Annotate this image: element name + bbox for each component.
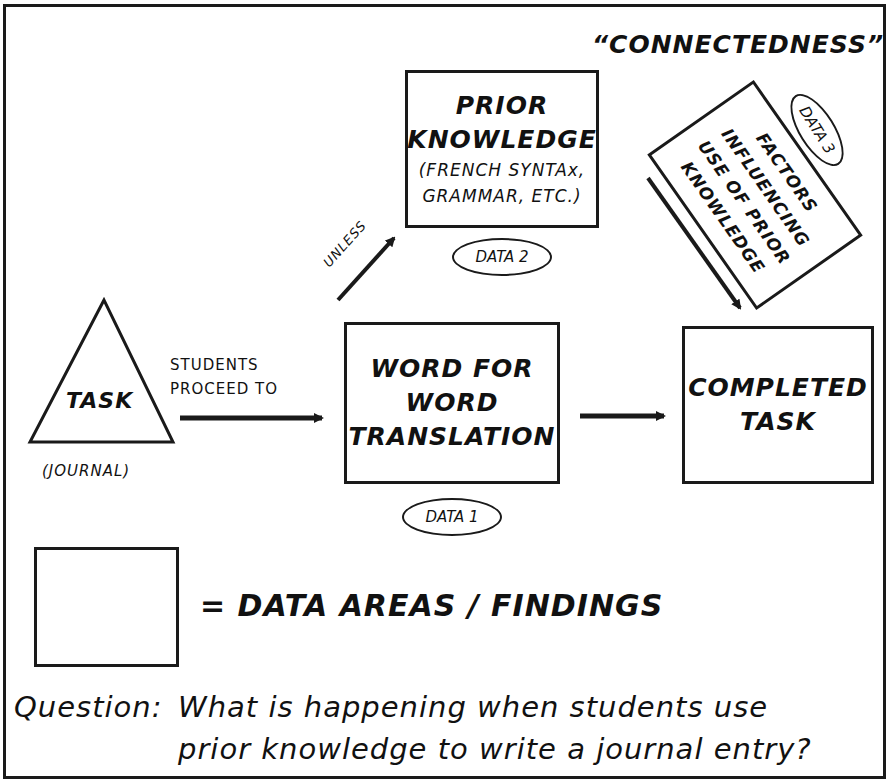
word-for-word-box: WORD FOR WORD TRANSLATION: [344, 322, 560, 484]
word-line2: WORD: [406, 386, 499, 420]
legend-swatch: [34, 547, 179, 667]
question-prefix: Question:: [14, 690, 162, 724]
completed-task-box: COMPLETED TASK: [682, 326, 874, 484]
prior-line3: (FRENCH SYNTAx,: [419, 157, 586, 183]
prior-line1: PRIOR: [456, 89, 548, 123]
task-label: TASK: [66, 388, 133, 413]
completed-line1: COMPLETED: [688, 371, 868, 405]
diagram-canvas: “CONNECTEDNESS” TASK (JOURNAL) STUDENTS …: [0, 0, 891, 784]
legend-text: = DATA AREAS / FINDINGS: [200, 588, 663, 623]
prior-line4: GRAMMAR, ETC.): [422, 183, 581, 209]
data-2-badge: DATA 2: [452, 238, 552, 276]
question-line2: prior knowledge to write a journal entry…: [178, 732, 812, 766]
data-1-text: DATA 1: [425, 508, 478, 526]
word-line1: WORD FOR: [370, 352, 533, 386]
edge-label-students: STUDENTS: [170, 354, 259, 376]
completed-line2: TASK: [740, 405, 816, 439]
task-triangle: [30, 300, 173, 442]
prior-line2: KNOWLEDGE: [407, 123, 596, 157]
connectedness-title: “CONNECTEDNESS”: [592, 30, 884, 59]
edge-label-proceed: PROCEED TO: [170, 378, 278, 400]
task-sublabel: (JOURNAL): [42, 460, 130, 482]
data-1-badge: DATA 1: [402, 498, 502, 536]
question-line1: What is happening when students use: [178, 690, 768, 724]
data-2-text: DATA 2: [475, 248, 528, 266]
word-line3: TRANSLATION: [349, 420, 556, 454]
prior-knowledge-box: PRIOR KNOWLEDGE (FRENCH SYNTAx, GRAMMAR,…: [405, 70, 599, 228]
